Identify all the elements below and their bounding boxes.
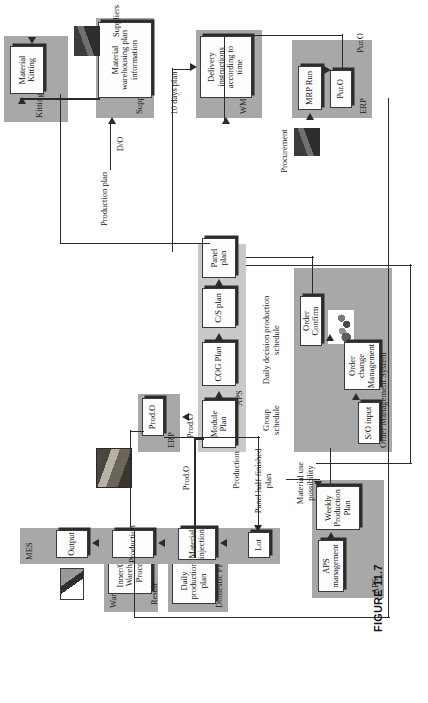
box-output[interactable]: Output xyxy=(56,530,88,558)
supplier-truck-icon xyxy=(74,26,100,56)
box-production[interactable]: Production xyxy=(112,530,154,558)
connector-orderconfirm-out xyxy=(312,256,313,296)
connector-dailyplan-drop xyxy=(194,438,204,440)
connector-puro-to-wms-2 xyxy=(224,35,342,36)
connector-material-use xyxy=(286,479,320,480)
arrow-material-use xyxy=(314,481,322,488)
flow-label-prod-o-2: Prod.O xyxy=(182,462,192,494)
connector-warehousing-drop xyxy=(130,431,144,432)
factory-machine-photo xyxy=(96,448,132,488)
arrow-into-lot xyxy=(254,525,262,532)
figure-caption: FIGURE 11.7 xyxy=(372,564,384,632)
box-daily-production-plan[interactable]: Daily production plan xyxy=(172,558,216,604)
arrow-module-to-cog xyxy=(215,391,223,398)
box-material-warehousing-plan-information[interactable]: Material warehousing plan information xyxy=(98,22,152,98)
connector-do-1 xyxy=(110,122,111,170)
diagram-canvas: APS APS management Weekly Production Pla… xyxy=(0,0,428,640)
connector-tendays-2 xyxy=(172,69,192,70)
box-so-input[interactable]: S/O input xyxy=(358,402,380,444)
box-order-confirm[interactable]: Order Confirm xyxy=(300,296,322,346)
figure-page: APS APS management Weekly Production Pla… xyxy=(0,0,428,703)
arrow-orderchange-to-confirm xyxy=(326,334,334,341)
group-mes-label: MES xyxy=(24,542,34,560)
arrow-into-material-kitting-2 xyxy=(28,37,36,44)
diagram-rotation-wrapper: APS APS management Weekly Production Pla… xyxy=(0,0,428,640)
box-prod-o-erp[interactable]: Prod.O xyxy=(142,398,164,436)
flow-label-daily-decision-production-schedule: Daily decision production schedule xyxy=(262,292,281,388)
box-lot[interactable]: Lot xyxy=(248,532,270,558)
connector-weekly-feedback-1 xyxy=(330,448,331,484)
connector-prodplan-1 xyxy=(60,243,210,244)
box-material-kitting[interactable]: Material Kitting xyxy=(10,46,44,94)
box-pur-o[interactable]: Pur.O xyxy=(330,70,352,108)
connector-matwh-to-kitting xyxy=(20,98,100,100)
connector-orderconfirm-down xyxy=(246,257,314,258)
box-mrp-run[interactable]: MRP Run xyxy=(298,66,322,110)
connector-puro-to-wms-3 xyxy=(224,34,225,120)
group-erp-left-label: ERP xyxy=(358,98,368,114)
box-cog-plan[interactable]: COG Plan xyxy=(202,342,236,386)
flow-label-pur-o: Pur.O xyxy=(356,26,366,60)
box-delivery-instructions[interactable]: Delivery instructions according to time xyxy=(200,36,252,98)
flow-label-production-plan: Production plan xyxy=(100,162,110,236)
group-erp-right-label: ERP xyxy=(166,432,176,448)
connector-erp-to-lot-2 xyxy=(164,437,260,438)
delivery-truck-icon xyxy=(294,128,320,156)
connector-result-1 xyxy=(134,528,135,618)
connector-left-rail-2 xyxy=(410,264,411,464)
flow-label-result: Result xyxy=(150,574,160,614)
arrow-cog-to-cs xyxy=(215,333,223,340)
arrow-mrprun-to-puro xyxy=(324,66,331,74)
arrow-production-to-output xyxy=(92,539,99,547)
connector-tendays-1 xyxy=(172,68,173,252)
flow-label-d-o: D/O xyxy=(116,130,126,158)
box-material-injection[interactable]: Material injection xyxy=(178,528,216,560)
arrow-cs-to-panel xyxy=(215,279,223,286)
arrow-soinput-to-orderchange xyxy=(352,393,360,400)
connector-result-3 xyxy=(388,98,389,618)
arrow-into-mrp-run xyxy=(306,113,314,120)
arrow-lot-to-material-injection xyxy=(220,539,227,547)
box-panel-plan[interactable]: Panel plan xyxy=(202,238,236,278)
flow-label-procurement: Procurement xyxy=(280,120,290,182)
connector-puro-to-wms xyxy=(342,34,343,70)
flow-label-group-schedule: Group schedule xyxy=(262,396,281,444)
flow-label-panel-half-finished-plan: Panel half-finished plan xyxy=(254,448,273,514)
box-module-plan[interactable]: Module Plan xyxy=(202,400,236,448)
connector-dailyplan-to-panel xyxy=(194,438,196,558)
box-weekly-production-plan[interactable]: Weekly Production Plan xyxy=(316,486,360,530)
flow-label-suppliers: Suppliers xyxy=(112,0,122,44)
box-order-change-management[interactable]: Order change Management xyxy=(344,342,380,390)
box-cs-plan[interactable]: C/S plan xyxy=(202,288,236,328)
box-aps-management[interactable]: APS management xyxy=(318,540,344,592)
arrow-matinj-to-production xyxy=(158,539,165,547)
connector-warehousing-to-erp xyxy=(130,430,131,528)
connector-prodplan-2 xyxy=(60,94,61,244)
connector-erp-to-lot-1 xyxy=(258,436,259,528)
arrow-apsmgmt-to-weekly xyxy=(327,532,335,539)
flow-label-production: Production xyxy=(232,446,242,494)
barcode-scanner-icon xyxy=(60,568,84,600)
flow-label-material-use-possibility: Material use possibility xyxy=(296,448,315,518)
connector-result-2 xyxy=(134,617,390,618)
